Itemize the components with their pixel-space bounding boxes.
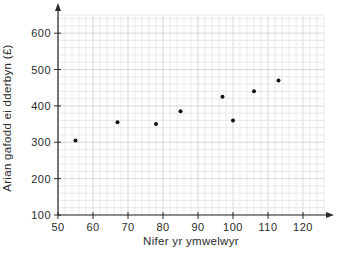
scatter-chart: 5060708090100110120100200300400500600 Ni… — [0, 0, 339, 269]
y-tick-label: 500 — [31, 64, 51, 76]
y-axis-arrow — [55, 3, 61, 11]
data-point — [231, 118, 235, 122]
y-tick-label: 100 — [31, 209, 51, 221]
y-tick-label: 300 — [31, 136, 51, 148]
data-point — [74, 138, 78, 142]
data-point — [277, 78, 281, 82]
y-axis-label: Arian gafodd ei dderbyn (£) — [1, 44, 13, 191]
x-tick-label: 80 — [156, 221, 169, 233]
x-tick-label: 70 — [121, 221, 134, 233]
x-axis-label: Nifer yr ymwelwyr — [143, 235, 239, 247]
x-axis-arrow — [326, 212, 334, 218]
tick-labels: 5060708090100110120100200300400500600 — [31, 27, 313, 233]
y-tick-label: 200 — [31, 173, 51, 185]
x-tick-label: 110 — [258, 221, 277, 233]
x-tick-label: 60 — [86, 221, 99, 233]
data-point — [154, 122, 158, 126]
x-tick-label: 120 — [293, 221, 313, 233]
data-point — [116, 120, 120, 124]
x-tick-label: 90 — [191, 221, 204, 233]
y-tick-label: 400 — [31, 100, 51, 112]
data-point — [252, 89, 256, 93]
data-point — [221, 95, 225, 99]
y-tick-label: 600 — [31, 27, 51, 39]
grid-lines — [58, 15, 324, 215]
data-point — [179, 109, 183, 113]
x-tick-label: 50 — [51, 221, 64, 233]
x-tick-label: 100 — [223, 221, 243, 233]
scatter-plot-canvas: 5060708090100110120100200300400500600 Ni… — [0, 0, 339, 269]
